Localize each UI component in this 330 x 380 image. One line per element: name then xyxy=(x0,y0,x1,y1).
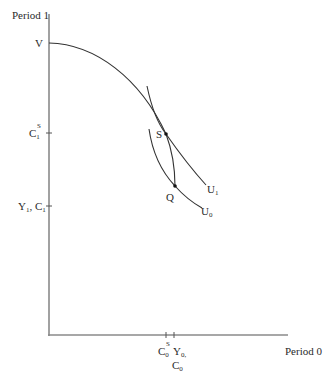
label-u0: U0 xyxy=(201,206,212,221)
label-point-s: S xyxy=(156,129,162,140)
label-v: V xyxy=(35,38,43,49)
label-u1-sub: 1 xyxy=(215,189,219,197)
y-axis-label: Period 1 xyxy=(12,10,49,21)
label-u1-main: U xyxy=(207,183,215,195)
label-c1s: CS1 xyxy=(29,128,40,143)
label-y0-main: Y xyxy=(173,345,181,357)
label-c0s-sub: 0 xyxy=(165,351,169,359)
label-c0-sub: 0 xyxy=(179,365,183,373)
production-frontier-curve xyxy=(49,43,175,186)
label-u1: U1 xyxy=(207,184,218,199)
label-c0: C0 xyxy=(172,360,183,375)
point-q xyxy=(173,184,177,188)
indifference-curve-u0 xyxy=(149,129,202,208)
label-c1s-sup: S xyxy=(37,121,41,132)
point-s xyxy=(164,132,168,136)
label-y0-sub: 0, xyxy=(181,351,186,359)
label-c1s-sub: 1 xyxy=(36,133,40,141)
label-c0s-sup: S xyxy=(166,339,170,350)
label-u0-main: U xyxy=(201,205,209,217)
label-y1-c1: Y1, C1 xyxy=(18,201,46,216)
label-point-q: Q xyxy=(166,192,174,203)
label-u0-sub: 0 xyxy=(209,211,213,219)
label-c0s: CS0 xyxy=(158,346,169,361)
diagram-canvas xyxy=(0,0,330,380)
x-axis-label: Period 0 xyxy=(285,346,322,357)
label-c1-sub: 1 xyxy=(42,206,46,214)
label-y1-main: Y xyxy=(18,200,26,212)
